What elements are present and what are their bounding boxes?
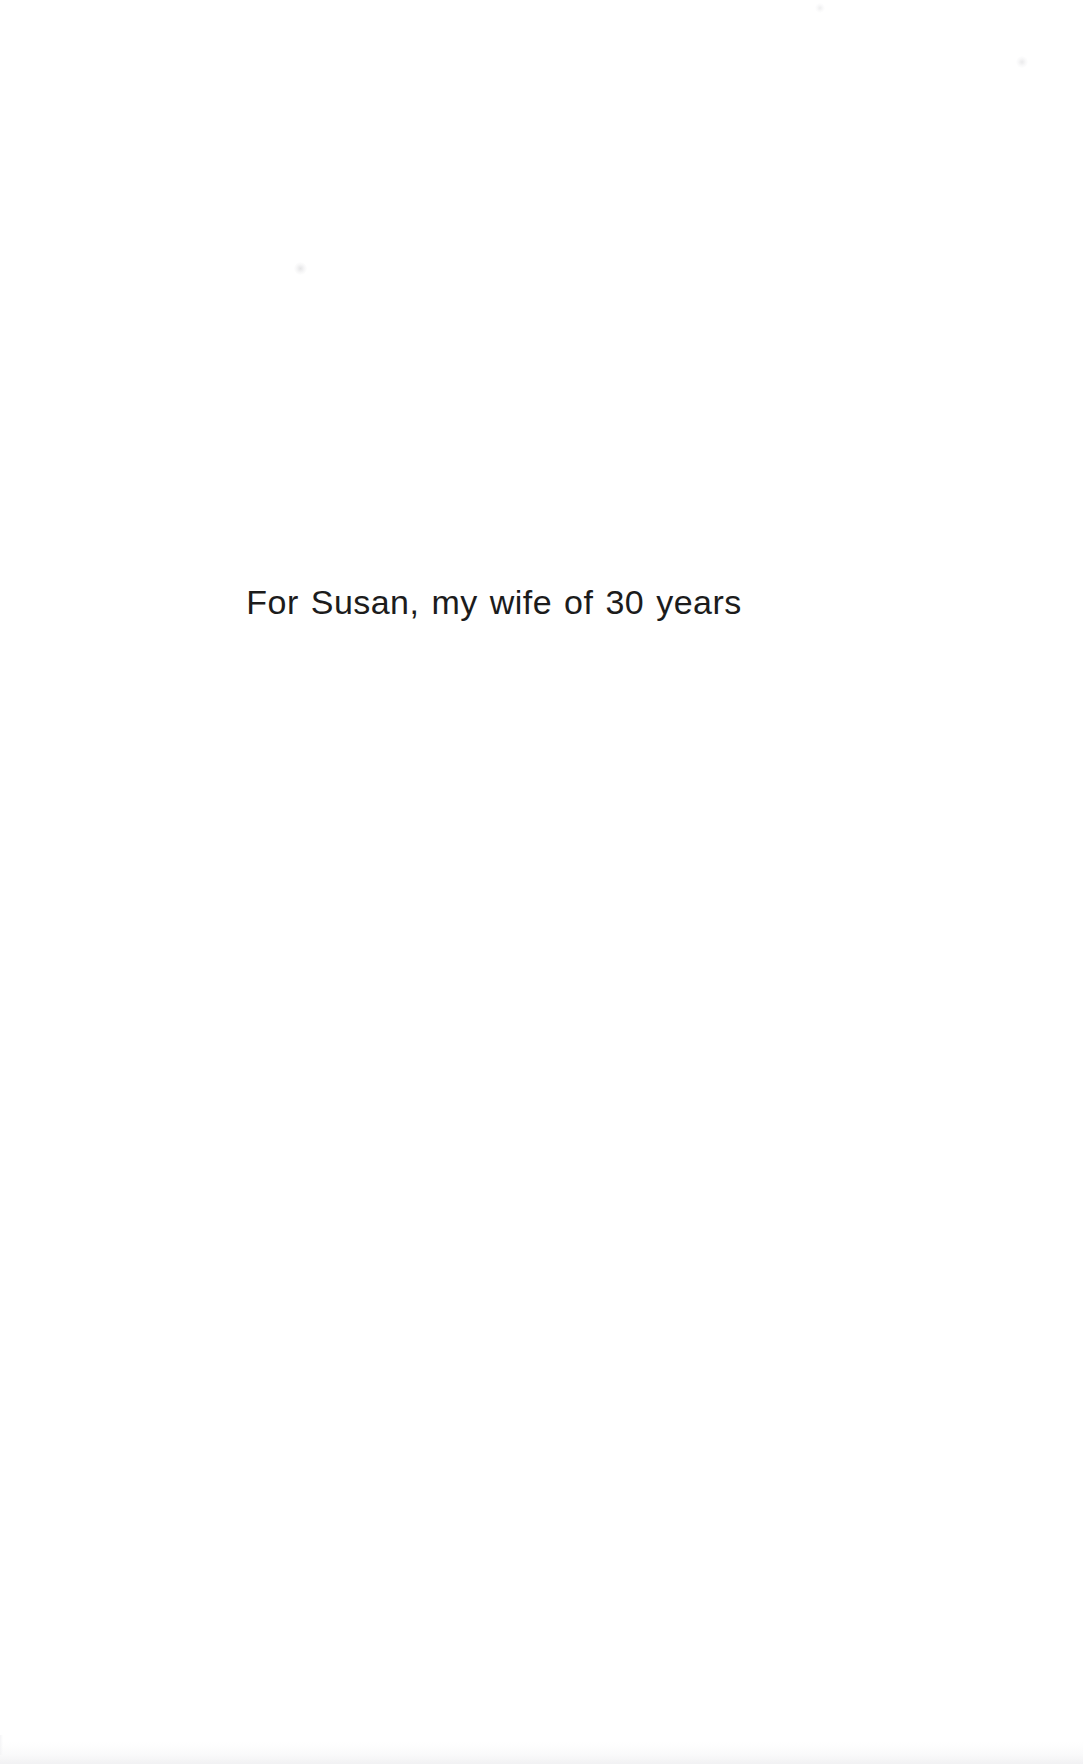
scan-bottom-shadow	[0, 1742, 1083, 1764]
scan-left-edge	[0, 1735, 3, 1755]
dedication-block: For Susan, my wife of 30 years	[0, 585, 988, 619]
scan-speck-icon	[815, 3, 825, 13]
scan-speck-icon	[294, 262, 307, 275]
dedication-text: For Susan, my wife of 30 years	[246, 585, 741, 619]
dedication-page: For Susan, my wife of 30 years	[0, 0, 1083, 1764]
scan-speck-icon	[1016, 56, 1028, 68]
